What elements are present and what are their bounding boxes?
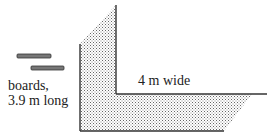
boards-label: boards, 3.9 m long [8,78,68,108]
boards-label-line2: 3.9 m long [8,93,68,108]
canal-water-region [80,5,252,131]
canal-corner-diagram [0,0,275,139]
board-2 [31,66,64,70]
board-1 [17,54,51,58]
boards-label-line1: boards, [8,78,68,93]
width-label: 4 m wide [138,73,190,88]
